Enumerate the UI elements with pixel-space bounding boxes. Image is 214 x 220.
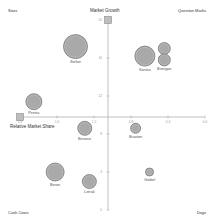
bubble-label: Boron — [50, 183, 60, 187]
y-tick-label: 16 — [98, 56, 102, 60]
bubble-pentra[interactable]: Pentra — [26, 94, 42, 116]
y-tick-label: 4 — [100, 170, 102, 174]
bubble-label: Lotrak — [84, 190, 95, 194]
bubble-santos[interactable]: Santos — [135, 46, 155, 72]
bubble-label: Stefan — [70, 60, 81, 64]
bubble-giobel[interactable]: Giobel — [144, 168, 155, 182]
y-tick-label: 12 — [98, 94, 102, 98]
bubble-label: Benosic — [78, 137, 92, 141]
y-tick-label: 8 — [100, 132, 102, 136]
bubble-braxton[interactable]: Braxton — [129, 123, 142, 139]
bubble-label: Santos — [139, 68, 151, 72]
quadrant-label-stars: Stars — [8, 8, 17, 13]
quadrant-label-dogs: Dogs — [197, 210, 206, 215]
chart-svg: 2.01.61.20.80.40.0201612840 StefanPentra… — [0, 0, 214, 220]
y-tick-label: 20 — [98, 18, 102, 22]
x-tick-label: 1.6 — [55, 120, 60, 124]
x-tick-label: 1.2 — [92, 120, 97, 124]
bubble-brengan[interactable]: Brengan — [157, 54, 171, 72]
bubble-stefan[interactable]: Stefan — [64, 35, 88, 65]
bubble-label: Giobel — [144, 178, 155, 182]
bubble-boron[interactable]: Boron — [46, 163, 64, 187]
bcg-matrix-chart: 2.01.61.20.80.40.0201612840 StefanPentra… — [0, 0, 214, 220]
bubble-label: Brengan — [157, 67, 171, 71]
bubble-benosic[interactable]: Benosic — [78, 121, 92, 141]
quadrant-label-cash-cows: Cash Cows — [8, 210, 28, 215]
y-axis-title: Market Growth — [90, 8, 120, 13]
y-axis-handle[interactable] — [105, 17, 112, 24]
axes: 2.01.61.20.80.40.0201612840 — [17, 17, 208, 213]
x-tick-label: 0.0 — [203, 120, 208, 124]
x-tick-label: 0.8 — [129, 120, 134, 124]
y-tick-label: 0 — [100, 208, 102, 212]
bubble-lotrak[interactable]: Lotrak — [82, 175, 96, 195]
x-tick-label: 0.4 — [166, 120, 171, 124]
bubble-label: Pentra — [28, 111, 40, 115]
quadrant-label-question-marks: Question Marks — [178, 8, 206, 13]
x-axis-title: Relative Market Share — [10, 124, 55, 129]
bubble-label: Braxton — [129, 135, 142, 139]
